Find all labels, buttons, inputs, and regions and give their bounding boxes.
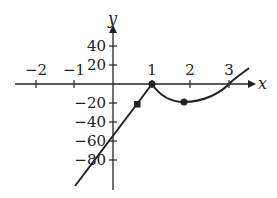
y-tick-label: 20	[87, 56, 106, 74]
y-tick-label: −40	[74, 113, 106, 131]
x-tick-label: 3	[224, 61, 234, 79]
point-marker-circle	[149, 81, 156, 88]
y-tick-label: −20	[74, 94, 106, 112]
x-tick-label: −1	[63, 61, 85, 79]
right-branch-curve	[152, 68, 249, 102]
function-graph: −2 −1 1 2 3 40 20 −20 −40 −60 −80 x y	[0, 0, 277, 198]
y-tick-label: −60	[74, 132, 106, 150]
point-marker-square	[134, 101, 141, 108]
x-axis-label: x	[258, 74, 267, 93]
x-tick-label: 1	[147, 61, 157, 79]
point-marker-circle	[181, 99, 188, 106]
x-tick-label: 2	[185, 61, 195, 79]
x-tick-label: −2	[25, 61, 47, 79]
y-axis-label: y	[107, 9, 118, 28]
y-tick-label: 40	[87, 37, 106, 55]
